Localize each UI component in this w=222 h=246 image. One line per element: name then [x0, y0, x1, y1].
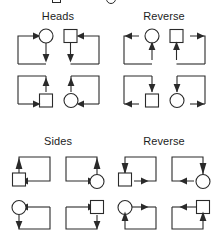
- figure-canvas: Heads: [0, 0, 222, 246]
- diagram-reverse-top-r1c2: [165, 26, 211, 70]
- diagram-heads-r2c2: [59, 70, 105, 114]
- diagram-sides-r2c2: [59, 195, 105, 239]
- diagram-reverse-top-r2c1: [118, 70, 164, 114]
- panel-sides: Sides: [6, 135, 110, 245]
- diagram-reverse-top-r2c2: [165, 70, 211, 114]
- diagram-heads-r1c1: [12, 26, 58, 70]
- cropped-square-glyph: [52, 0, 61, 3]
- panel-heads-reverse: Reverse: [110, 10, 218, 120]
- cropped-circle-glyph: [106, 0, 116, 4]
- diagram-heads-r2c1: [12, 70, 58, 114]
- panel-sides-reverse: Reverse: [110, 135, 218, 245]
- diagram-sides-r2c1: [12, 195, 58, 239]
- panel-sides-label: Sides: [6, 135, 110, 148]
- diagram-reverse-bottom-r1c2: [165, 151, 211, 195]
- cropped-row-above: [0, 0, 222, 5]
- panel-heads: Heads: [6, 10, 110, 120]
- diagram-reverse-bottom-r2c1: [118, 195, 164, 239]
- panel-heads-reverse-label: Reverse: [110, 10, 218, 23]
- diagram-reverse-top-r1c1: [118, 26, 164, 70]
- diagram-sides-r1c2: [59, 151, 105, 195]
- panel-sides-reverse-label: Reverse: [110, 135, 218, 148]
- diagram-heads-r1c2: [59, 26, 105, 70]
- diagram-sides-r1c1: [12, 151, 58, 195]
- diagram-reverse-bottom-r2c2: [165, 195, 211, 239]
- diagram-reverse-bottom-r1c1: [118, 151, 164, 195]
- panel-heads-label: Heads: [6, 10, 110, 23]
